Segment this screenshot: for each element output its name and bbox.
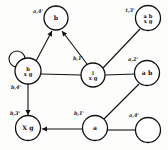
edge-left-to-center-line [41,74,81,75]
node-bottom-right-corner-label: a,4' [129,112,139,118]
node-bottom-right[interactable] [136,118,161,143]
node-bottom-center-corner-label: b,1' [74,110,85,116]
edge-left-to-top-line [36,31,52,61]
edge-center-to-topright-line [103,29,140,68]
node-top-text-line-0: b [54,14,59,21]
diagram-canvas: ba bx gbx gix ga bX ga a,4't,3'b,4'b,1'a… [0,0,168,150]
node-right[interactable]: a b [135,61,160,86]
node-top-right-text-line-1: x g [144,18,153,25]
node-bottom-center-text-line-0: a [93,124,97,131]
edge-center-to-right [105,74,135,75]
node-right-corner-label: a,2' [128,56,138,62]
node-bottom-center[interactable]: a [83,116,108,141]
edge-left-to-top [36,31,52,61]
node-right-text-line-0: a b [142,69,153,76]
node-left-text-line-1: x g [24,71,33,78]
node-top-corner-label: a,4' [33,8,43,14]
node-center-corner-label: b,1' [73,55,84,61]
edge-bottomcenter-to-bottomleft [42,126,82,131]
node-top-right[interactable]: a bx g [136,6,161,31]
node-bottom-left-corner-label: b,3' [10,110,21,116]
node-bottom-left[interactable]: X g [16,116,41,141]
nodes-layer: ba bx gbx gix ga bX ga [15,6,161,143]
edge-left-to-bottomleft [25,84,30,115]
edge-left-to-center [41,74,81,75]
edge-center-to-topright [103,29,140,68]
edge-bottomcenter-to-bottomleft-arrowhead [42,126,47,131]
node-center[interactable]: ix g [81,63,105,87]
node-left[interactable]: bx g [15,58,41,84]
node-top-right-corner-label: t,3' [125,7,135,13]
node-bottom-right-circle[interactable] [136,118,161,143]
node-center-text-line-1: x g [89,75,98,82]
node-top[interactable]: b [44,6,68,30]
edge-left-to-bottomleft-arrowhead [25,110,30,115]
edge-center-to-top-arrowhead [62,31,67,37]
edge-center-to-right-line [105,74,135,75]
graph-svg: ba bx gbx gix ga bX ga a,4't,3'b,4'b,1'a… [0,0,168,150]
node-left-corner-label: b,4' [11,84,22,90]
node-bottom-left-text-line-0: X g [22,124,34,132]
